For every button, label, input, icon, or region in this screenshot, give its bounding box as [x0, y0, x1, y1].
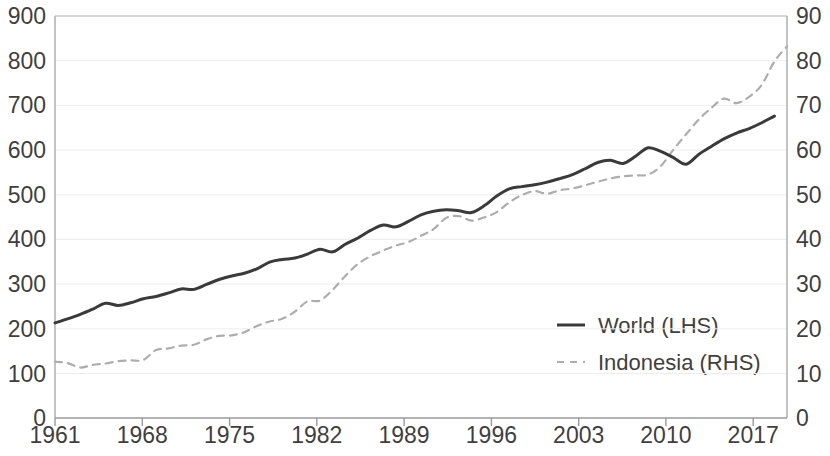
- legend-swatches: [557, 325, 585, 362]
- series-line-indonesia: [55, 46, 787, 367]
- series-line-world: [55, 116, 774, 323]
- chart-container: 900 800 700 600 500 400 300 200 100 0 90…: [0, 0, 830, 456]
- chart-plot-svg: [0, 0, 830, 456]
- gridlines: [55, 61, 787, 374]
- x-axis-ticks: [55, 418, 753, 426]
- plot-frame: [55, 16, 787, 418]
